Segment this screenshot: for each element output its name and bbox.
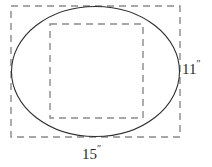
inch-mark-icon: ″ [196, 58, 200, 69]
width-dimension-value: 15 [82, 146, 97, 162]
width-dimension-label: 15″ [82, 145, 101, 162]
inscribed-ellipse [12, 7, 180, 137]
geometry-figure: 11″ 15″ [0, 0, 212, 167]
figure-canvas [0, 0, 212, 167]
height-dimension-value: 11 [182, 61, 196, 77]
inch-mark-icon: ″ [97, 143, 101, 154]
height-dimension-label: 11″ [182, 60, 201, 77]
inner-dashed-square [50, 24, 143, 118]
